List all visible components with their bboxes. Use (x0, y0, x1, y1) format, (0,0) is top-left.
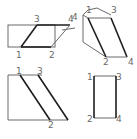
figure-c-label-1: 1 (16, 66, 22, 76)
figure-b: 1 3 4 2 4 (62, 5, 134, 67)
figure-b-label-side-4: 4 (72, 12, 78, 22)
figure-b-pointer-line (62, 28, 75, 30)
figure-a-label-3: 3 (34, 14, 40, 24)
figure-a-edge-2-4 (51, 25, 70, 47)
figure-c-label-3: 3 (37, 66, 43, 76)
caption (0, 131, 137, 139)
figure-d-label-2: 2 (87, 114, 93, 124)
figure-a-edge-1-3 (21, 25, 37, 47)
geometry-diagram: 3 4 1 2 1 3 4 2 4 1 3 2 1 3 2 (0, 0, 137, 139)
figure-a: 3 4 1 2 (8, 14, 74, 60)
figure-d-label-1: 1 (87, 72, 93, 82)
figure-b-label-1: 1 (86, 5, 92, 15)
figure-c: 1 3 2 (8, 66, 68, 130)
figure-d: 1 3 2 4 (87, 72, 122, 124)
figure-c-rectangle (8, 75, 68, 120)
figure-b-label-4: 4 (128, 57, 134, 67)
figure-b-label-2: 2 (103, 57, 109, 67)
figure-c-diagonal-3 (38, 75, 68, 120)
figure-b-corner-edge (83, 15, 88, 18)
figure-d-label-4: 4 (116, 114, 122, 124)
figure-a-label-1: 1 (16, 50, 22, 60)
figure-c-label-2: 2 (48, 120, 54, 130)
figure-b-edge-3-4 (111, 18, 127, 57)
figure-c-diagonal-1-2 (20, 75, 50, 120)
figure-a-rectangle (8, 25, 55, 47)
figure-b-label-3: 3 (111, 5, 117, 15)
figure-d-label-3: 3 (116, 72, 122, 82)
figure-a-label-2: 2 (49, 50, 55, 60)
